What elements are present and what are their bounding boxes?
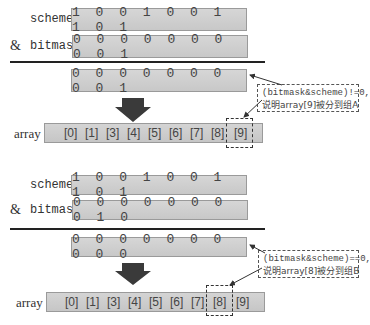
array-cell-6: [6]: [169, 126, 182, 140]
down-arrow-icon: [115, 263, 151, 285]
and-operator: &: [10, 202, 21, 218]
scheme-label: scheme: [30, 178, 73, 192]
array-cell-8: [8]: [211, 126, 224, 140]
array-cell-9: [9]: [236, 295, 249, 309]
bitmask-bits-box: 0 0 0 0 0 0 0 0 1 0: [72, 200, 248, 220]
and-operator: &: [10, 38, 21, 54]
array-label: array: [16, 295, 43, 311]
annotation-line-2: 说明array[9]被分到组A: [262, 99, 354, 111]
array-cell-0: [0]: [65, 295, 78, 309]
array-cell-1: [1]: [85, 126, 98, 140]
annotation-line-1: (bitmask&scheme)!=0,: [262, 87, 354, 99]
scheme-label: scheme: [30, 12, 73, 26]
array-cell-1: [1]: [86, 295, 99, 309]
array-cell-4: [4]: [128, 295, 141, 309]
array-cell-6: [6]: [170, 295, 183, 309]
array-cell-3: [3]: [107, 295, 120, 309]
annotation-line-1: (bitmask&scheme)==0,: [263, 253, 354, 265]
scheme-bits-box: 1 0 0 1 0 0 1 1 0 1: [71, 175, 247, 195]
array-cell-4: [4]: [127, 126, 140, 140]
down-arrow-icon: [115, 98, 151, 122]
array-cell-0: [0]: [64, 126, 77, 140]
array-label: array: [14, 126, 41, 142]
annotation-line-2: 说明array[8]被分到组B: [263, 265, 354, 277]
array-cell-5: [5]: [149, 295, 162, 309]
highlight-cell-8: [206, 285, 233, 316]
scheme-bits-box: 1 0 0 1 0 0 1 1 0 1: [71, 8, 247, 31]
annotation-note: (bitmask&scheme)!=0, 说明array[9]被分到组A: [257, 84, 359, 112]
array-cell-3: [3]: [106, 126, 119, 140]
divider-line: [10, 61, 265, 63]
divider-line: [10, 228, 265, 230]
bitmask-bits-box: 0 0 0 0 0 0 0 0 0 1: [72, 35, 248, 58]
array-cell-5: [5]: [148, 126, 161, 140]
result-bits-box: 0 0 0 0 0 0 0 0 0 0: [71, 237, 247, 257]
result-bits-box: 0 0 0 0 0 0 0 0 0 1: [71, 69, 247, 92]
annotation-note: (bitmask&scheme)==0, 说明array[8]被分到组B: [258, 250, 359, 278]
array-cell-7: [7]: [191, 295, 204, 309]
highlight-cell-9: [226, 118, 253, 148]
array-cell-7: [7]: [190, 126, 203, 140]
